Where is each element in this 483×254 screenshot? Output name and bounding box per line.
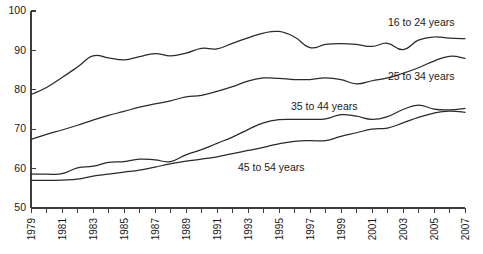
y-tick-label: 60	[14, 162, 26, 174]
y-tick-label: 80	[14, 83, 26, 95]
series-label: 45 to 54 years	[238, 161, 305, 173]
data-series-lines	[31, 31, 465, 180]
series-label: 25 to 34 years	[388, 70, 455, 82]
x-tick-label: 2005	[429, 218, 440, 241]
x-tick-label: 1999	[336, 218, 347, 241]
x-tick-label: 1987	[150, 218, 161, 241]
chart-axes	[31, 11, 465, 213]
x-tick-label: 1995	[274, 218, 285, 241]
x-tick-label: 2007	[460, 218, 471, 241]
y-axis-tick-labels: 5060708090100	[8, 4, 26, 213]
x-axis-tick-labels: 1979198119831985198719891991199319951997…	[26, 218, 471, 241]
x-tick-label: 1989	[181, 218, 192, 241]
x-tick-label: 1985	[119, 218, 130, 241]
line-chart: 5060708090100 19791981198319851987198919…	[0, 0, 483, 254]
axis-lines	[31, 11, 465, 208]
x-tick-label: 1991	[212, 218, 223, 241]
x-tick-label: 1983	[88, 218, 99, 241]
x-axis-tick-marks	[31, 208, 465, 213]
x-tick-label: 1993	[243, 218, 254, 241]
y-axis-tick-marks	[31, 50, 36, 208]
x-tick-label: 1979	[26, 218, 37, 241]
x-tick-label: 2001	[367, 218, 378, 241]
y-tick-label: 90	[14, 44, 26, 56]
x-tick-label: 1997	[305, 218, 316, 241]
chart-container: 5060708090100 19791981198319851987198919…	[0, 0, 483, 254]
series-line-16-to-24-years	[31, 31, 465, 94]
x-tick-label: 2003	[398, 218, 409, 241]
series-label: 16 to 24 years	[388, 16, 455, 28]
series-line-25-to-34-years	[31, 56, 465, 139]
y-tick-label: 70	[14, 122, 26, 134]
x-tick-label: 1981	[57, 218, 68, 241]
y-tick-label: 50	[14, 201, 26, 213]
y-tick-label: 100	[8, 4, 26, 16]
series-label: 35 to 44 years	[291, 100, 358, 112]
